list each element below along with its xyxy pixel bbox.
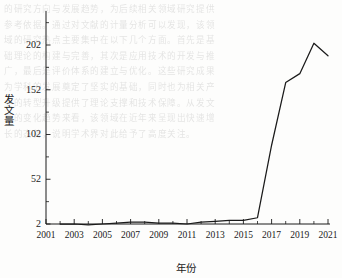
data-series-line [60, 43, 328, 225]
y-tick-label: 152 [26, 84, 41, 95]
y-tick-label: 52 [31, 173, 41, 184]
y-axis-ticks [46, 45, 51, 224]
x-tick-label: 2019 [290, 230, 309, 240]
x-tick-label: 2013 [206, 230, 225, 240]
x-tick-label: 2001 [37, 230, 56, 240]
y-tick-label: 2 [36, 218, 41, 229]
x-tick-label: 2017 [262, 230, 281, 240]
chart-figure: 的研究方向与发展趋势，为后续相关领域研究提供 参考依据。通过对文献的计量分析可以… [0, 0, 342, 278]
x-tick-label: 2009 [149, 230, 168, 240]
line-chart-plot: 252102152202 200120032005200720092011201… [0, 0, 342, 278]
y-axis-tick-labels: 252102152202 [26, 39, 41, 229]
x-tick-label: 2015 [234, 230, 253, 240]
y-tick-label: 202 [26, 39, 41, 50]
x-tick-label: 2011 [178, 230, 197, 240]
x-tick-label: 2003 [65, 230, 84, 240]
x-axis-tick-labels: 2001200320052007200920112013201520172019… [37, 230, 338, 240]
x-axis-title: 年份 [176, 262, 197, 274]
y-axis-title: 发文量 [2, 94, 14, 127]
x-tick-label: 2007 [121, 230, 140, 240]
x-tick-label: 2005 [93, 230, 112, 240]
y-axis-title-wrapper: 发文量 [2, 94, 16, 152]
y-tick-label: 102 [26, 128, 41, 139]
x-tick-label: 2021 [319, 230, 338, 240]
